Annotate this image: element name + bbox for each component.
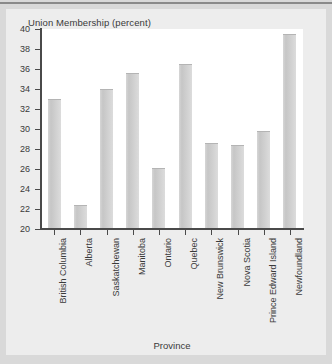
bar xyxy=(152,168,165,229)
x-tick-mark xyxy=(133,230,134,235)
x-tick-mark xyxy=(80,230,81,235)
x-tick-mark xyxy=(159,230,160,235)
y-tick-mark xyxy=(35,49,41,50)
x-tick-label: Prince Edward Island xyxy=(268,238,278,323)
y-tick-label: 34 xyxy=(20,84,30,94)
bar xyxy=(126,73,139,229)
y-tick-label: 40 xyxy=(20,24,30,34)
bar xyxy=(74,205,87,229)
y-tick-label: 28 xyxy=(20,144,30,154)
bar xyxy=(257,131,270,229)
y-tick-mark xyxy=(35,89,41,90)
x-tick-label: Nova Scotia xyxy=(242,238,252,287)
y-tick-mark xyxy=(35,229,41,230)
y-tick-label: 22 xyxy=(20,204,30,214)
x-axis-title: Province xyxy=(6,340,332,351)
bars-layer xyxy=(41,29,303,229)
x-tick-label: Manitoba xyxy=(137,238,147,275)
x-tick-label: Alberta xyxy=(84,238,94,267)
x-tick-label: Saskatchewan xyxy=(111,238,121,297)
chart-title: Union Membership (percent) xyxy=(28,17,151,28)
x-tick-mark xyxy=(107,230,108,235)
x-tick-mark xyxy=(54,230,55,235)
bar xyxy=(283,34,296,229)
figure-canvas: Union Membership (percent) 2022242628303… xyxy=(6,9,326,355)
x-tick-mark xyxy=(264,230,265,235)
y-tick-mark xyxy=(35,69,41,70)
bar xyxy=(100,89,113,229)
y-tick-label: 20 xyxy=(20,224,30,234)
x-tick-mark xyxy=(211,230,212,235)
x-tick-mark xyxy=(238,230,239,235)
y-tick-mark xyxy=(35,149,41,150)
y-tick-mark xyxy=(35,109,41,110)
x-tick-label: New Brunswick xyxy=(215,238,225,300)
y-tick-mark xyxy=(35,209,41,210)
x-tick-label: Ontario xyxy=(163,238,173,268)
x-tick-label: Quebec xyxy=(189,238,199,270)
y-tick-label: 24 xyxy=(20,184,30,194)
y-tick-label: 36 xyxy=(20,64,30,74)
bar xyxy=(231,145,244,229)
x-tick-label: British Columbia xyxy=(58,238,68,304)
top-divider xyxy=(0,2,332,4)
plot-area xyxy=(41,29,303,229)
y-tick-mark xyxy=(35,29,41,30)
y-tick-label: 30 xyxy=(20,124,30,134)
bar xyxy=(48,99,61,229)
x-tick-label: Newfoundland xyxy=(294,238,304,296)
x-tick-mark xyxy=(185,230,186,235)
bar xyxy=(205,143,218,229)
chart-figure: Union Membership (percent) 2022242628303… xyxy=(0,0,332,364)
y-tick-mark xyxy=(35,189,41,190)
bar xyxy=(179,64,192,229)
y-tick-label: 38 xyxy=(20,44,30,54)
x-tick-mark xyxy=(290,230,291,235)
y-tick-mark xyxy=(35,129,41,130)
y-tick-label: 26 xyxy=(20,164,30,174)
y-tick-label: 32 xyxy=(20,104,30,114)
y-tick-mark xyxy=(35,169,41,170)
